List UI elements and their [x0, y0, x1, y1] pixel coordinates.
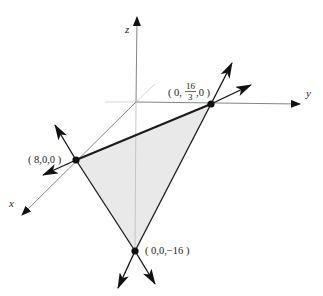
- x-intercept-label: ( 8,0,0 ): [28, 154, 62, 166]
- svg-text:3: 3: [188, 92, 193, 102]
- svg-text:,0 ): ,0 ): [196, 87, 211, 99]
- arrow-y-right: [211, 85, 251, 104]
- arrow-z-down-left: [118, 251, 135, 288]
- z-axis-label: z: [124, 23, 130, 35]
- shaded-triangle: [76, 104, 211, 251]
- z-axis: [136, 17, 137, 102]
- point-y-intercept: [207, 100, 214, 107]
- x-axis-label: x: [8, 197, 14, 209]
- y-intercept-label: ( 0, 16 3 ,0 ): [168, 81, 211, 102]
- plane-diagram: z y x ( 8,0,0 ) ( 0, 16 3 ,0 ) ( 0,0,−16…: [0, 0, 323, 296]
- z-intercept-label: ( 0,0,−16 ): [145, 245, 190, 257]
- x-axis-negative: [136, 84, 155, 102]
- arrow-y-up: [211, 63, 232, 104]
- svg-text:( 0,: ( 0,: [168, 87, 182, 99]
- y-axis-label: y: [305, 87, 311, 99]
- y-axis: [136, 102, 300, 104]
- point-z-intercept: [131, 247, 138, 254]
- svg-text:16: 16: [186, 81, 196, 91]
- point-x-intercept: [72, 156, 79, 163]
